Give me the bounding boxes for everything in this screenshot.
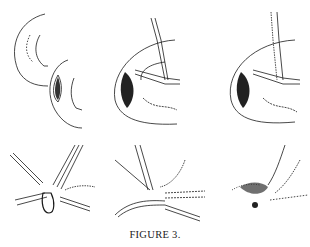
eye-tube-forceps-illustration <box>105 0 205 130</box>
panel-top-middle <box>105 0 205 130</box>
panel-bottom-left <box>5 145 100 225</box>
eye-incision-illustration <box>0 0 100 130</box>
panel-bottom-middle <box>110 145 210 225</box>
panel-top-left <box>0 0 100 130</box>
panel-top-right <box>225 0 310 130</box>
tube-loop-closeup-illustration <box>5 145 100 225</box>
panel-bottom-right <box>230 145 310 225</box>
eye-tube-withdrawal-illustration <box>225 0 310 130</box>
tube-insertion-closeup-illustration <box>110 145 210 225</box>
figure-caption: FIGURE 3. <box>0 229 310 240</box>
sutured-closure-closeup-illustration <box>230 145 310 225</box>
